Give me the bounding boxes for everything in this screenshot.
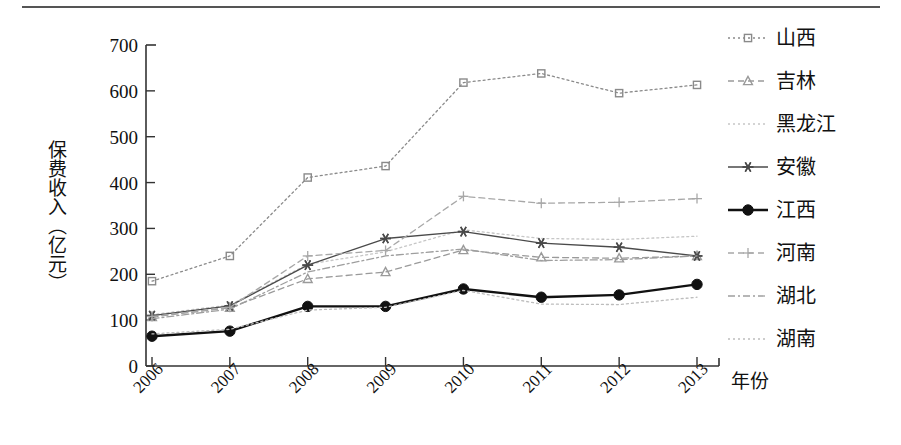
series-group	[147, 70, 703, 342]
series-line	[152, 230, 697, 315]
none-marker	[726, 332, 770, 346]
plus-marker	[726, 246, 770, 260]
circle-marker	[692, 279, 702, 289]
asterisk-marker	[614, 243, 625, 252]
legend-item-吉林[interactable]: 吉林	[726, 69, 816, 93]
circle-marker	[147, 331, 157, 341]
legend-item-湖南[interactable]: 湖南	[726, 327, 816, 351]
legend-item-山西[interactable]: 山西	[726, 26, 816, 50]
x-axis-title: 年份	[731, 370, 769, 392]
none-marker	[726, 289, 770, 303]
y-tick-label: 300	[110, 218, 139, 239]
plus-marker	[303, 251, 313, 261]
x-tick-label: 2012	[597, 359, 634, 396]
legend-marker-sample	[726, 332, 770, 346]
legend-item-江西[interactable]: 江西	[726, 198, 816, 222]
x-tick-label: 2008	[285, 359, 322, 396]
circle-marker	[225, 326, 235, 336]
circle-marker	[743, 205, 753, 215]
asterisk-marker	[743, 162, 754, 171]
asterisk-marker	[302, 260, 313, 269]
x-axis-title-text: 年份	[731, 370, 769, 392]
figure-container: 保费收入（亿元） 0100200300400500600700 20062007…	[0, 0, 901, 445]
x-tick-label: 2009	[363, 359, 400, 396]
x-tick-label: 2011	[519, 360, 556, 397]
y-tick-label: 100	[110, 310, 139, 331]
x-tick-label: 2007	[207, 359, 245, 397]
legend-marker-sample	[726, 289, 770, 303]
legend-marker-sample	[726, 246, 770, 260]
y-tick-label: 500	[110, 127, 139, 148]
asterisk-marker	[380, 234, 391, 243]
legend-marker-sample	[726, 203, 770, 217]
circle-marker	[458, 284, 468, 294]
legend-label: 吉林	[776, 71, 816, 91]
none-marker	[726, 117, 770, 131]
legend-label: 江西	[776, 200, 816, 220]
plus-marker	[614, 197, 624, 207]
legend-label: 山西	[776, 28, 816, 48]
series-2	[152, 230, 697, 315]
legend-marker-sample	[726, 160, 770, 174]
square-marker	[726, 31, 770, 45]
chart-legend: 山西吉林黑龙江安徽江西河南湖北湖南	[726, 26, 896, 356]
plus-marker	[458, 191, 468, 201]
legend-item-安徽[interactable]: 安徽	[726, 155, 816, 179]
series-0	[148, 70, 700, 285]
legend-item-湖北[interactable]: 湖北	[726, 284, 816, 308]
legend-label: 河南	[776, 243, 816, 263]
legend-label: 湖北	[776, 286, 816, 306]
asterisk-marker	[458, 227, 469, 236]
plus-marker	[536, 198, 546, 208]
y-tick-label: 0	[129, 356, 139, 377]
legend-item-黑龙江[interactable]: 黑龙江	[726, 112, 836, 136]
legend-label: 黑龙江	[776, 114, 836, 134]
plus-marker	[743, 248, 753, 258]
triangle-marker	[726, 74, 770, 88]
legend-marker-sample	[726, 117, 770, 131]
y-tick-label: 700	[110, 35, 139, 56]
x-tick-label: 2013	[674, 359, 711, 396]
y-tick-labels: 0100200300400500600700	[110, 35, 139, 377]
asterisk-marker	[726, 160, 770, 174]
y-tick-label: 400	[110, 173, 139, 194]
asterisk-marker	[536, 238, 547, 247]
x-tick-labels: 20062007200820092010201120122013	[129, 359, 711, 397]
series-line	[152, 232, 697, 316]
y-tick-label: 600	[110, 81, 139, 102]
axes-group	[146, 45, 719, 366]
circle-marker	[536, 292, 546, 302]
circle-marker	[614, 290, 624, 300]
x-tick-label: 2010	[441, 359, 478, 396]
legend-marker-sample	[726, 31, 770, 45]
series-line	[152, 73, 697, 281]
legend-label: 湖南	[776, 329, 816, 349]
legend-item-河南[interactable]: 河南	[726, 241, 816, 265]
legend-label: 安徽	[776, 157, 816, 177]
y-tick-label: 200	[110, 264, 139, 285]
plus-marker	[692, 194, 702, 204]
legend-marker-sample	[726, 74, 770, 88]
plus-marker	[381, 245, 391, 255]
circle-marker	[726, 203, 770, 217]
